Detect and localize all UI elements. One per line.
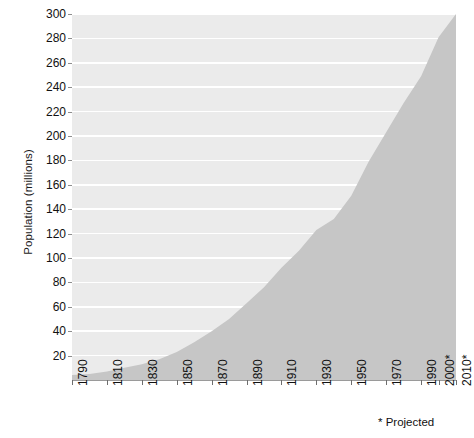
x-tick-label: 1910 [286, 359, 298, 386]
y-tick-label: 160 [32, 179, 66, 191]
plot-area [72, 14, 456, 380]
x-tick-mark [212, 380, 213, 385]
x-tick-label: 1810 [112, 359, 124, 386]
x-tick-mark [421, 380, 422, 385]
y-tick-label: 80 [32, 276, 66, 288]
y-tick-label: 40 [32, 325, 66, 337]
x-tick-mark [177, 380, 178, 385]
y-tick-label: 120 [32, 228, 66, 240]
y-tick-label: 100 [32, 252, 66, 264]
x-tick-mark [142, 380, 143, 385]
y-tick-mark [68, 258, 72, 259]
x-tick-label: 1990 [426, 359, 438, 386]
y-tick-mark [68, 331, 72, 332]
x-tick-label: 1870 [217, 359, 229, 386]
y-tick-mark [68, 14, 72, 15]
x-tick-label: 2000* [444, 355, 456, 386]
y-tick-label: 200 [32, 130, 66, 142]
y-tick-label: 260 [32, 57, 66, 69]
y-tick-mark [68, 356, 72, 357]
y-tick-mark [68, 87, 72, 88]
x-tick-label: 1850 [182, 359, 194, 386]
x-tick-mark [386, 380, 387, 385]
y-tick-label: 60 [32, 301, 66, 313]
y-tick-mark [68, 160, 72, 161]
y-tick-label: 240 [32, 81, 66, 93]
y-tick-label: 280 [32, 32, 66, 44]
x-tick-label: 1790 [77, 359, 89, 386]
x-tick-mark [281, 380, 282, 385]
projected-footnote: * Projected [378, 416, 434, 428]
x-tick-label: 1930 [321, 359, 333, 386]
x-tick-mark [72, 380, 73, 385]
x-tick-label: 1970 [391, 359, 403, 386]
x-tick-mark [439, 380, 440, 385]
y-tick-mark [68, 282, 72, 283]
y-tick-label: 300 [32, 8, 66, 20]
x-tick-mark [107, 380, 108, 385]
x-tick-mark [247, 380, 248, 385]
y-axis-tick-labels: 2040608010012014016018020022024026028030… [28, 0, 66, 438]
y-tick-mark [68, 307, 72, 308]
y-tick-mark [68, 63, 72, 64]
y-tick-mark [68, 112, 72, 113]
y-tick-label: 20 [32, 350, 66, 362]
y-tick-mark [68, 38, 72, 39]
x-tick-mark [316, 380, 317, 385]
y-tick-mark [68, 136, 72, 137]
x-tick-label: 1830 [147, 359, 159, 386]
x-tick-mark [351, 380, 352, 385]
x-tick-mark [456, 380, 457, 385]
x-tick-label: 1890 [252, 359, 264, 386]
y-tick-mark [68, 185, 72, 186]
y-tick-mark [68, 234, 72, 235]
population-area-series [72, 14, 456, 380]
x-tick-label: 2010* [461, 355, 473, 386]
y-tick-label: 180 [32, 154, 66, 166]
y-tick-label: 140 [32, 203, 66, 215]
y-tick-mark [68, 209, 72, 210]
x-tick-label: 1950 [356, 359, 368, 386]
y-tick-label: 220 [32, 106, 66, 118]
